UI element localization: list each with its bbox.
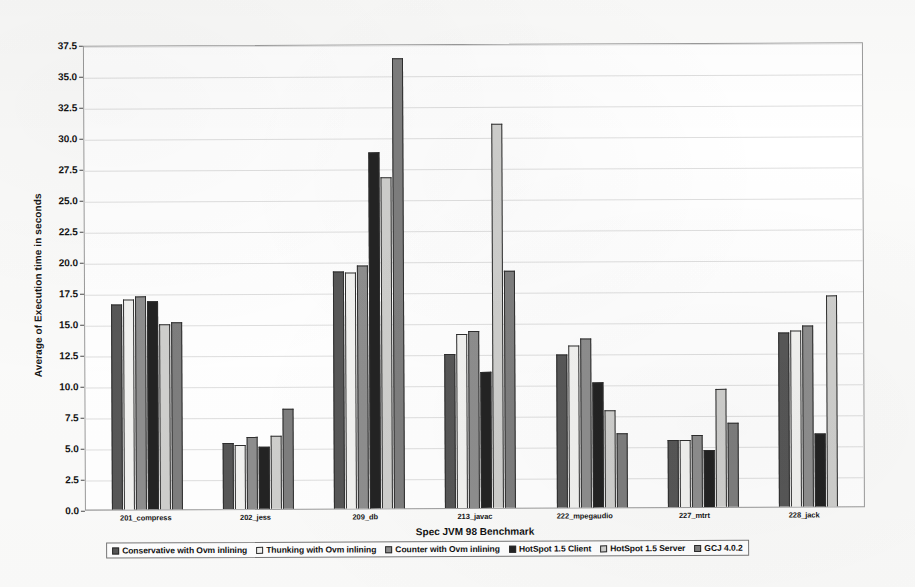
- bar-group: [666, 44, 739, 507]
- chart-legend: Conservative with Ovm inliningThunking w…: [106, 540, 749, 559]
- bar-group: [443, 45, 516, 508]
- x-axis-title: Spec JVM 98 Benchmark: [85, 524, 865, 538]
- legend-label: Counter with Ovm inlining: [395, 544, 500, 554]
- bar: [778, 333, 790, 507]
- bar: [333, 272, 345, 509]
- bar: [357, 265, 369, 508]
- legend-item: GCJ 4.0.2: [694, 543, 742, 553]
- y-tick-label: 37.5: [35, 40, 77, 51]
- bar: [247, 437, 258, 509]
- bar: [111, 305, 123, 510]
- bar: [159, 325, 171, 510]
- bar: [123, 300, 135, 510]
- bar: [381, 177, 393, 508]
- legend-label: Thunking with Ovm inlining: [266, 544, 376, 554]
- bar: [469, 331, 481, 508]
- bar: [604, 411, 615, 508]
- bar-group: [221, 46, 294, 509]
- y-tick-label: 12.5: [36, 350, 78, 361]
- bar-group: [555, 44, 628, 507]
- bar: [171, 322, 183, 509]
- bar: [580, 339, 592, 508]
- y-tick-label: 15.0: [36, 319, 78, 330]
- bar: [259, 447, 270, 509]
- bar: [727, 422, 738, 506]
- legend-swatch-icon: [385, 546, 392, 553]
- legend-label: HotSpot 1.5 Client: [519, 543, 591, 553]
- bar: [679, 440, 690, 507]
- y-tick-label: 22.5: [36, 226, 78, 237]
- plot-area: [83, 42, 865, 510]
- legend-swatch-icon: [256, 546, 263, 553]
- y-tick-label: 20.0: [36, 257, 78, 268]
- legend-label: HotSpot 1.5 Server: [610, 543, 685, 553]
- legend-item: HotSpot 1.5 Client: [509, 543, 591, 553]
- bar: [592, 382, 604, 507]
- y-tick-label: 27.5: [35, 164, 77, 175]
- bar: [826, 296, 838, 507]
- bar: [504, 271, 516, 508]
- bar: [223, 443, 234, 509]
- bar-groups: [84, 43, 864, 509]
- y-tick-label: 25.0: [36, 195, 78, 206]
- bar: [457, 334, 469, 508]
- bar: [147, 301, 159, 509]
- y-tick-label: 35.0: [35, 71, 77, 82]
- bar: [556, 355, 568, 508]
- bar: [135, 296, 147, 509]
- bar: [616, 433, 627, 507]
- bar: [369, 152, 382, 508]
- bar: [492, 123, 505, 507]
- legend-swatch-icon: [509, 545, 516, 552]
- legend-swatch-icon: [600, 545, 607, 552]
- y-tick-label: 30.0: [35, 133, 77, 144]
- bar-group: [110, 46, 183, 509]
- bar: [445, 354, 457, 508]
- bar: [667, 440, 678, 507]
- y-tick-label: 7.5: [37, 412, 79, 423]
- bar: [815, 433, 826, 506]
- bar: [481, 371, 493, 507]
- y-tick-mark: [81, 511, 85, 512]
- y-tick-label: 2.5: [37, 474, 79, 485]
- legend-item: Counter with Ovm inlining: [385, 544, 500, 554]
- legend-item: HotSpot 1.5 Server: [600, 543, 685, 553]
- bar: [271, 436, 282, 509]
- legend-item: Conservative with Ovm inlining: [112, 545, 247, 556]
- bar-group: [777, 43, 838, 506]
- y-tick-label: 32.5: [35, 102, 77, 113]
- legend-swatch-icon: [112, 547, 119, 554]
- bar: [790, 330, 802, 506]
- bar: [235, 444, 246, 509]
- y-tick-label: 10.0: [36, 381, 78, 392]
- legend-item: Thunking with Ovm inlining: [256, 544, 376, 555]
- y-tick-label: 0.0: [37, 505, 79, 516]
- bar: [345, 273, 357, 509]
- y-tick-label: 5.0: [37, 443, 79, 454]
- bar: [715, 389, 727, 507]
- legend-label: Conservative with Ovm inlining: [122, 545, 247, 556]
- bar: [283, 408, 294, 508]
- bar: [703, 450, 714, 507]
- y-axis-tick-labels: 0.02.55.07.510.012.515.017.520.022.525.0…: [35, 46, 79, 516]
- bar: [691, 435, 702, 507]
- bar-chart-figure: Average of Execution time in seconds 0.0…: [0, 0, 915, 587]
- legend-label: GCJ 4.0.2: [704, 543, 742, 553]
- bar: [568, 345, 580, 507]
- legend-swatch-icon: [694, 544, 701, 551]
- bar-group: [332, 45, 405, 508]
- bar: [802, 325, 814, 506]
- y-tick-label: 17.5: [36, 288, 78, 299]
- bar: [392, 58, 405, 508]
